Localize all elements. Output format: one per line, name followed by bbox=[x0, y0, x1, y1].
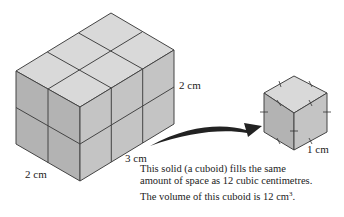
volume-text: The volume of this cuboid is 12 cm bbox=[140, 191, 289, 202]
caption-line-1: This solid (a cuboid) fills the same bbox=[140, 163, 344, 175]
unit-edge-label: 1 cm bbox=[307, 143, 329, 155]
unit-cube bbox=[260, 76, 331, 150]
caption-line-3: The volume of this cuboid is 12 cm3. bbox=[140, 191, 344, 203]
caption: This solid (a cuboid) fills the same amo… bbox=[140, 163, 344, 203]
large-cuboid bbox=[16, 13, 174, 181]
depth-label: 2 cm bbox=[25, 168, 47, 180]
period: . bbox=[293, 191, 296, 202]
caption-line-2: amount of space as 12 cubic centimetres. bbox=[140, 175, 344, 187]
figure: 2 cm 2 cm 3 cm 1 cm This solid (a cuboid… bbox=[0, 0, 344, 217]
height-label: 2 cm bbox=[179, 79, 201, 91]
